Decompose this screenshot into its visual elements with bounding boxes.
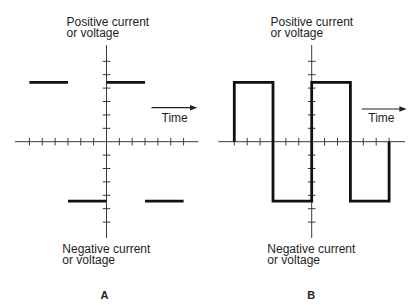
positive-label-line2: or voltage [271,26,324,40]
arrowhead-icon [190,105,197,110]
panel-b: Time Positive current or voltage Negativ… [218,15,406,301]
positive-label-line2: or voltage [67,26,120,40]
negative-label-line2: or voltage [267,253,320,267]
time-label: Time [162,111,189,125]
arrowhead-icon [399,106,406,111]
panel-caption: B [307,289,315,301]
waveform-figure: Time Positive current or voltage Negativ… [0,0,419,305]
time-label: Time [368,111,395,125]
negative-label-line2: or voltage [62,253,115,267]
panel-a: Time Positive current or voltage Negativ… [15,15,198,301]
panel-caption: A [101,289,109,301]
